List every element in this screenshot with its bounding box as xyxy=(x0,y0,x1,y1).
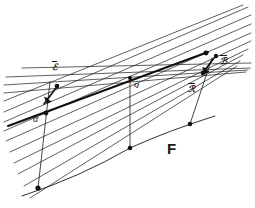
point-q-label: Q xyxy=(134,82,139,89)
fan-line-6 xyxy=(18,55,243,174)
diagram-canvas xyxy=(0,0,255,208)
dot-left-base xyxy=(35,185,40,190)
geometric-diagram: ℰ ℬ ℛ α Q F xyxy=(0,0,255,208)
surface-f-label: F xyxy=(167,141,176,156)
fan-line-3 xyxy=(6,33,251,141)
base-curve xyxy=(22,116,215,196)
vector-b-label: ℬ xyxy=(220,55,227,66)
fan-line-5 xyxy=(14,49,248,163)
base-curve-group xyxy=(22,116,215,196)
dot-center-curve xyxy=(128,146,133,151)
dot-left-arrow xyxy=(55,84,60,89)
dot-center-apex xyxy=(128,76,132,80)
vector-r-label: ℛ xyxy=(188,83,195,94)
vector-p-label: ℰ xyxy=(52,61,57,72)
dot-right-curve xyxy=(188,122,193,127)
fan-line-1 xyxy=(4,15,251,122)
fan-lines-group xyxy=(4,5,251,198)
dot-right-arrow xyxy=(214,54,218,58)
dot-right-upper xyxy=(201,71,205,75)
angle-alpha-label: α xyxy=(33,114,38,124)
dot-bold-line-end xyxy=(204,51,209,56)
fan-line-13 xyxy=(6,68,250,77)
dot-left-upper xyxy=(44,111,49,116)
